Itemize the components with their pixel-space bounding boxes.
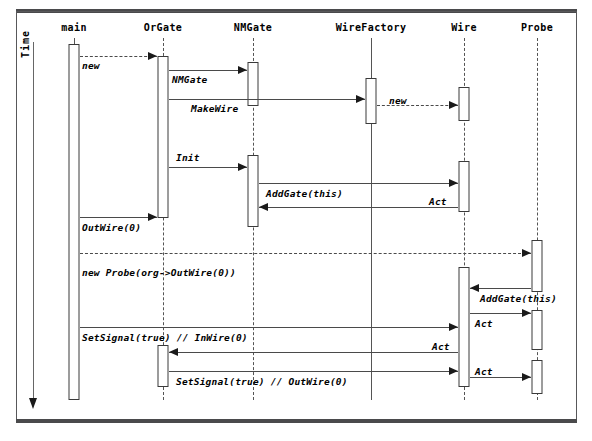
- participant-head-orgate: OrGate: [144, 22, 183, 33]
- message-label-m11: AddGate(this): [480, 293, 557, 304]
- message-label-m7: Act: [429, 196, 447, 207]
- message-line-m6: [259, 183, 458, 184]
- message-label-m5: Init: [176, 152, 200, 163]
- participant-head-nmgate: NMGate: [234, 22, 273, 33]
- message-label-m10: new Probe(org->OutWire(0)): [82, 267, 236, 278]
- message-arrowhead-m7: [259, 203, 268, 211]
- message-line-m13: [80, 327, 458, 328]
- time-axis-line: [33, 42, 34, 400]
- message-line-m8: [80, 217, 157, 218]
- frame-bottom-border: [16, 419, 577, 423]
- message-line-m14: [169, 352, 458, 353]
- message-label-m14: Act: [432, 341, 450, 352]
- message-arrowhead-m2: [238, 66, 247, 74]
- message-label-m8: OutWire(0): [82, 222, 141, 233]
- message-label-m12: Act: [475, 318, 493, 329]
- participant-head-probe: Probe: [521, 22, 553, 33]
- message-label-m16: Act: [475, 366, 493, 377]
- message-arrowhead-m1: [148, 52, 157, 60]
- message-line-m9: [80, 253, 531, 254]
- participant-head-wire: Wire: [451, 22, 477, 33]
- sequence-diagram-canvas: Time newNMGateMakeWirenewInitAddGate(thi…: [0, 0, 592, 441]
- activation-bar-wire: [459, 267, 470, 387]
- participant-head-main: main: [61, 22, 87, 33]
- activation-bar-probe: [532, 310, 543, 350]
- time-axis-label: Time: [20, 30, 31, 58]
- message-arrowhead-m3: [356, 95, 365, 103]
- activation-bar-probe: [532, 360, 543, 394]
- activation-bar-wirefactory: [366, 78, 377, 124]
- message-line-m15: [169, 371, 458, 372]
- message-arrowhead-m4: [449, 101, 458, 109]
- message-line-m11: [470, 288, 531, 289]
- message-label-m6: AddGate(this): [266, 188, 343, 199]
- participant-head-wirefactory: WireFactory: [336, 22, 407, 33]
- message-arrowhead-m13: [449, 323, 458, 331]
- message-arrowhead-m12: [522, 309, 531, 317]
- activation-bar-main: [69, 44, 80, 400]
- message-arrowhead-m16: [522, 373, 531, 381]
- activation-bar-orgate: [158, 345, 169, 387]
- message-arrowhead-m11: [470, 284, 479, 292]
- message-label-m1: new: [82, 60, 100, 71]
- message-label-m4: new: [389, 95, 407, 106]
- activation-bar-wire: [459, 87, 470, 121]
- message-line-m3: [169, 99, 365, 100]
- message-arrowhead-m8: [148, 213, 157, 221]
- message-label-m15: SetSignal(true) // OutWire(0): [176, 376, 348, 387]
- message-arrowhead-m14: [169, 348, 178, 356]
- activation-bar-nmgate: [248, 155, 259, 227]
- message-line-m7: [259, 207, 458, 208]
- message-line-m5: [169, 167, 247, 168]
- message-arrowhead-m9: [522, 249, 531, 257]
- activation-bar-wire: [459, 161, 470, 212]
- message-label-m2: NMGate: [172, 74, 208, 85]
- message-label-m3: MakeWire: [191, 103, 238, 114]
- message-arrowhead-m15: [449, 367, 458, 375]
- message-arrowhead-m5: [238, 163, 247, 171]
- time-axis-arrowhead: [29, 398, 37, 409]
- activation-bar-orgate: [158, 56, 169, 218]
- message-line-m2: [169, 70, 247, 71]
- message-line-m1: [80, 56, 157, 57]
- message-arrowhead-m6: [449, 179, 458, 187]
- activation-bar-probe: [532, 240, 543, 292]
- message-label-m13: SetSignal(true) // InWire(0): [82, 332, 248, 343]
